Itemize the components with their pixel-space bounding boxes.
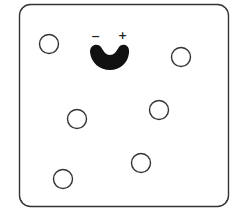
particle-circle [132,154,151,173]
particle-circle [40,35,59,54]
diagram-canvas: − + [0,0,240,209]
receptor-cup-shape [90,45,129,70]
positive-charge-label: + [118,29,127,42]
negative-charge-label: − [91,30,100,43]
particle-circle [150,101,169,120]
particle-circle [172,48,191,67]
receptor-group: − + [90,29,129,70]
particle-circle [54,170,73,189]
particle-circle [68,110,87,129]
